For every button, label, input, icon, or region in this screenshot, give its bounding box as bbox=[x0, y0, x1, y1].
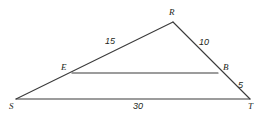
figure-svg bbox=[0, 0, 266, 117]
vertex-label-B: B bbox=[223, 63, 229, 72]
vertex-label-E: E bbox=[61, 63, 67, 72]
vertex-label-R: R bbox=[169, 8, 175, 17]
vertex-label-T: T bbox=[248, 102, 253, 111]
segment-SR bbox=[16, 22, 173, 99]
measure-label-ST: 30 bbox=[133, 102, 143, 111]
vertex-label-S: S bbox=[9, 102, 14, 111]
measure-label-RE: 15 bbox=[105, 37, 115, 46]
measure-label-RB: 10 bbox=[199, 38, 209, 47]
geometry-diagram: R E B S T 15 10 5 30 bbox=[0, 0, 266, 117]
measure-label-BT: 5 bbox=[238, 81, 243, 90]
